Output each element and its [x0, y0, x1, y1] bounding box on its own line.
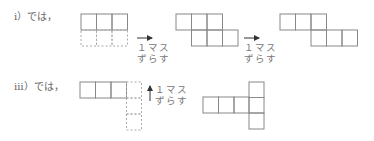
case-1-shape-shifted-1	[176, 14, 238, 46]
case-1-shape-shifted-2	[280, 14, 358, 46]
case-3-shape-shifted	[203, 82, 264, 129]
figure-canvas	[0, 0, 374, 141]
case-3-shape-initial	[80, 82, 142, 130]
case-1-shape-initial	[81, 14, 128, 46]
